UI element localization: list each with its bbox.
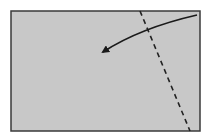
fold-diagram: [0, 0, 211, 139]
paper-sheet: [11, 11, 200, 131]
